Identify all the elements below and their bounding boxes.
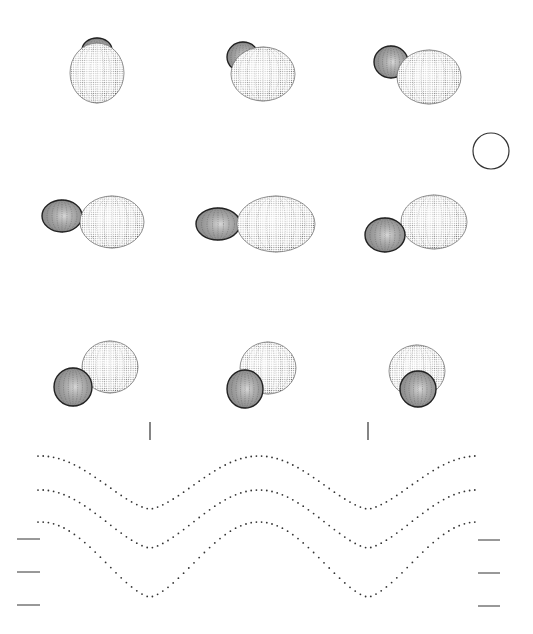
binary-phase-1: [70, 38, 124, 103]
curve-point: [183, 491, 185, 493]
primary-star: [80, 196, 144, 248]
curve-point: [412, 520, 414, 522]
curve-point: [84, 505, 86, 507]
curve-point: [115, 572, 117, 574]
curve-point: [443, 464, 445, 466]
curve-point: [308, 473, 310, 475]
curve-point: [375, 545, 377, 547]
curve-point: [162, 590, 164, 592]
curve-point: [115, 491, 117, 493]
curve-point: [105, 520, 107, 522]
level-ticks: [17, 539, 500, 606]
curve-point: [74, 534, 76, 536]
curve-point: [266, 456, 268, 458]
curve-point: [105, 484, 107, 486]
curve-point: [474, 521, 476, 523]
curve-point: [230, 462, 232, 464]
curve-point: [453, 494, 455, 496]
curve-point: [42, 489, 44, 491]
curve-point: [432, 505, 434, 507]
light-curves: [37, 455, 476, 597]
curve-point: [48, 490, 50, 492]
curve-point: [427, 473, 429, 475]
curve-point: [422, 551, 424, 553]
curve-point: [349, 540, 351, 542]
curve-point: [79, 467, 81, 469]
curve-point: [172, 498, 174, 500]
curve-point: [146, 547, 148, 549]
curve-point: [401, 528, 403, 530]
curve-point: [63, 527, 65, 529]
curve-point: [183, 572, 185, 574]
curve-point: [105, 562, 107, 564]
curve-point: [89, 546, 91, 548]
curve-point: [100, 556, 102, 558]
curve-point: [167, 586, 169, 588]
curve-point: [318, 557, 320, 559]
curve-point: [417, 480, 419, 482]
curve-point: [344, 498, 346, 500]
curve-point: [53, 491, 55, 493]
curve-point: [323, 521, 325, 523]
curve-point: [37, 455, 39, 457]
curve-point: [250, 456, 252, 458]
curve-point: [469, 522, 471, 524]
curve-point: [334, 529, 336, 531]
primary-star: [237, 196, 315, 252]
curve-point: [308, 509, 310, 511]
curve-point: [126, 498, 128, 500]
curve-point: [58, 458, 60, 460]
curve-point: [141, 545, 143, 547]
curve-point: [162, 504, 164, 506]
curve-point: [136, 504, 138, 506]
curve-point: [276, 492, 278, 494]
curve-point: [282, 460, 284, 462]
curve-point: [120, 495, 122, 497]
curve-point: [214, 505, 216, 507]
binary-phase-7: [54, 341, 138, 406]
curve-point: [136, 590, 138, 592]
curve-point: [89, 509, 91, 511]
curve-point: [406, 487, 408, 489]
curve-point: [406, 524, 408, 526]
curve-point: [443, 499, 445, 501]
curve-point: [167, 501, 169, 503]
curve-point: [297, 502, 299, 504]
curve-point: [178, 577, 180, 579]
curve-point: [204, 552, 206, 554]
curve-point: [219, 538, 221, 540]
curve-point: [261, 455, 263, 457]
curve-point: [240, 525, 242, 527]
curve-point: [63, 494, 65, 496]
curve-point: [406, 567, 408, 569]
binary-phase-3: [374, 46, 461, 104]
curve-point: [349, 586, 351, 588]
curve-point: [412, 484, 414, 486]
curve-point: [349, 501, 351, 503]
curve-point: [178, 533, 180, 535]
curve-point: [256, 521, 258, 523]
curve-point: [458, 492, 460, 494]
curve-point: [209, 473, 211, 475]
curve-point: [94, 551, 96, 553]
curve-point: [292, 499, 294, 501]
curve-point: [412, 562, 414, 564]
curve-point: [48, 456, 50, 458]
curve-point: [214, 470, 216, 472]
curve-point: [94, 512, 96, 514]
curve-point: [53, 523, 55, 525]
curve-point: [370, 508, 372, 510]
curve-point: [152, 596, 154, 598]
curve-point: [354, 504, 356, 506]
curve-point: [271, 523, 273, 525]
curve-point: [214, 542, 216, 544]
curve-point: [110, 524, 112, 526]
curve-point: [354, 543, 356, 545]
curve-point: [453, 459, 455, 461]
curve-point: [276, 458, 278, 460]
curve-point: [360, 506, 362, 508]
curve-point: [380, 590, 382, 592]
curve-point: [245, 491, 247, 493]
curve-point: [370, 547, 372, 549]
curve-point: [79, 502, 81, 504]
